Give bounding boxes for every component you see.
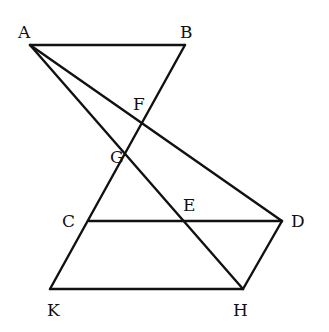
geometry-diagram: A B F G C E D K H (0, 0, 329, 332)
segment-ah (30, 45, 243, 289)
segment-dh (243, 221, 282, 289)
label-a: A (17, 22, 31, 42)
label-c: C (62, 211, 75, 231)
segment-ad (30, 45, 282, 221)
label-k: K (47, 300, 60, 320)
label-h: H (233, 300, 248, 320)
label-d: D (291, 211, 305, 231)
segment-bk (50, 45, 185, 289)
label-g: G (110, 147, 124, 167)
label-f: F (133, 94, 145, 114)
label-b: B (180, 22, 193, 42)
label-e: E (183, 195, 195, 215)
